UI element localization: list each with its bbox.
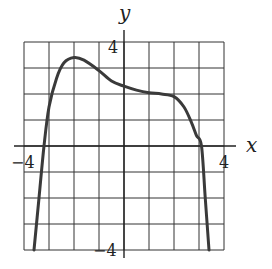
function-curve [34,57,209,250]
graph: y x 4 −4 −4 4 [0,0,272,269]
x-min-tick-label: −4 [11,153,35,172]
y-max-tick-label: 4 [108,38,118,57]
x-max-tick-label: 4 [219,153,229,172]
x-axis-label: x [246,133,257,157]
y-min-tick-label: −4 [93,241,117,260]
y-axis-label: y [118,1,131,25]
